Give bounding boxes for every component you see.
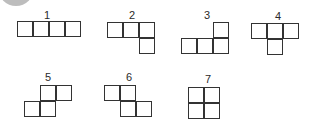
corner-circle-decoration [0,0,34,6]
shape-label: 1 [44,10,50,21]
square-cell [107,22,123,38]
square-cell [204,87,220,103]
square-cell [267,39,283,55]
square-cell [40,85,56,101]
square-cell [24,101,40,117]
square-cell [251,23,267,39]
square-cell [49,21,65,37]
square-cell [104,85,120,101]
square-cell [139,22,155,38]
square-cell [33,21,49,37]
square-cell [213,38,229,54]
square-cell [188,103,204,119]
square-cell [188,87,204,103]
square-cell [204,103,220,119]
square-cell [213,22,229,38]
square-cell [139,38,155,54]
shape-label: 6 [126,72,132,83]
square-cell [283,23,299,39]
shape-label: 7 [205,74,211,85]
shape-label: 2 [129,10,135,21]
square-cell [65,21,81,37]
square-cell [40,101,56,117]
square-cell [136,101,152,117]
square-cell [17,21,33,37]
square-cell [56,85,72,101]
square-cell [267,23,283,39]
square-cell [197,38,213,54]
square-cell [120,101,136,117]
shape-label: 4 [275,11,281,22]
shape-label: 5 [45,72,51,83]
square-cell [181,38,197,54]
square-cell [123,22,139,38]
square-cell [120,85,136,101]
shape-label: 3 [204,10,210,21]
